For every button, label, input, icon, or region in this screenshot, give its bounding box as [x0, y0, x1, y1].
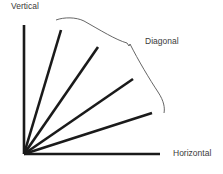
diagonal-line-4 — [24, 113, 152, 154]
diagonal-line-2 — [24, 47, 98, 154]
diagonal-label: Diagonal — [145, 37, 179, 46]
diagonal-line-3 — [24, 79, 133, 154]
horizontal-label: Horizontal — [173, 149, 211, 158]
diagonal-brace — [56, 18, 164, 113]
vertical-label: Vertical — [11, 2, 39, 11]
line-orientation-diagram: Vertical Diagonal Horizontal — [0, 0, 223, 174]
diagonal-line-1 — [24, 30, 61, 154]
